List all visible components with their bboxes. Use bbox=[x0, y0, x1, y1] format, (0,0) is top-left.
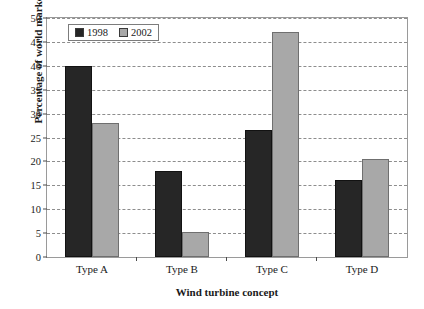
legend-swatch-icon-1998 bbox=[75, 28, 84, 37]
bar-group: Type A bbox=[47, 18, 137, 257]
legend-item-2002: 2002 bbox=[119, 27, 152, 38]
x-tick-label: Type D bbox=[317, 263, 407, 275]
x-tick-label: Type A bbox=[47, 263, 137, 275]
y-tick-label: 35 bbox=[31, 84, 48, 95]
legend-label-2002: 2002 bbox=[131, 27, 152, 38]
bar-group: Type B bbox=[137, 18, 227, 257]
bar-1998[interactable] bbox=[245, 130, 272, 257]
y-tick-label: 45 bbox=[31, 36, 48, 47]
y-tick-label: 10 bbox=[31, 204, 48, 215]
y-tick-label: 25 bbox=[31, 132, 48, 143]
y-tick-label: 50 bbox=[31, 13, 48, 24]
bar-2002[interactable] bbox=[272, 32, 299, 257]
y-tick-label: 15 bbox=[31, 180, 48, 191]
y-tick-label: 40 bbox=[31, 60, 48, 71]
legend: 1998 2002 bbox=[68, 24, 159, 41]
y-tick-label: 5 bbox=[36, 228, 47, 239]
bar-1998[interactable] bbox=[155, 171, 182, 257]
bar-2002[interactable] bbox=[92, 123, 119, 257]
x-tick-mark bbox=[136, 257, 137, 261]
y-tick-label: 20 bbox=[31, 156, 48, 167]
bar-1998[interactable] bbox=[335, 180, 362, 257]
legend-item-1998: 1998 bbox=[75, 27, 108, 38]
x-tick-mark bbox=[316, 257, 317, 261]
bar-1998[interactable] bbox=[65, 66, 92, 257]
bar-2002[interactable] bbox=[182, 232, 209, 257]
x-tick-mark bbox=[226, 257, 227, 261]
bar-groups: Type AType BType CType D bbox=[47, 18, 407, 257]
x-tick-label: Type C bbox=[227, 263, 317, 275]
y-tick-label: 0 bbox=[36, 252, 47, 263]
legend-swatch-icon-2002 bbox=[119, 28, 128, 37]
x-axis-title: Wind turbine concept bbox=[46, 286, 408, 298]
bar-2002[interactable] bbox=[362, 159, 389, 257]
bar-group: Type D bbox=[317, 18, 407, 257]
legend-label-1998: 1998 bbox=[87, 27, 108, 38]
bar-group: Type C bbox=[227, 18, 317, 257]
y-tick-label: 30 bbox=[31, 108, 48, 119]
plot-area: 05101520253035404550 Type AType BType CT… bbox=[46, 17, 408, 258]
x-tick-label: Type B bbox=[137, 263, 227, 275]
bar-chart: Percentage of world market 0510152025303… bbox=[0, 0, 424, 309]
